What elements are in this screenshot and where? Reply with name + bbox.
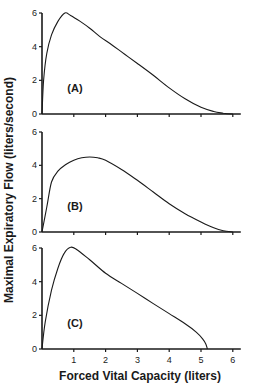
y-tick-label: 4 <box>32 42 37 52</box>
flow-volume-chart: 0246(A)0246(B)0246123456(C) Forced Vital… <box>0 0 259 392</box>
x-tick-label: 2 <box>103 355 108 365</box>
y-tick-label: 4 <box>32 160 37 170</box>
y-axis-title: Maximal Expiratory Flow (liters/second) <box>2 77 16 303</box>
y-tick-label: 0 <box>32 344 37 354</box>
x-tick-label: 6 <box>230 355 235 365</box>
flow-volume-curve <box>42 13 233 114</box>
chart-panels: 0246(A)0246(B)0246123456(C) <box>32 8 241 365</box>
panel-label: (C) <box>67 317 83 329</box>
y-tick-label: 4 <box>32 277 37 287</box>
x-tick-label: 3 <box>135 355 140 365</box>
y-tick-label: 6 <box>32 243 37 253</box>
x-tick-label: 5 <box>198 355 203 365</box>
y-tick-label: 6 <box>32 127 37 137</box>
x-tick-label: 4 <box>167 355 172 365</box>
flow-volume-curve <box>42 157 233 232</box>
panel-a: 0246(A) <box>32 8 241 119</box>
panel-label: (B) <box>67 200 83 212</box>
flow-volume-curve <box>42 247 207 349</box>
y-tick-label: 0 <box>32 109 37 119</box>
y-tick-label: 2 <box>32 75 37 85</box>
y-tick-label: 2 <box>32 310 37 320</box>
panel-b: 0246(B) <box>32 127 241 237</box>
x-axis-title: Forced Vital Capacity (liters) <box>59 369 221 383</box>
y-tick-label: 2 <box>32 194 37 204</box>
y-tick-label: 6 <box>32 8 37 18</box>
y-tick-label: 0 <box>32 227 37 237</box>
x-tick-label: 1 <box>71 355 76 365</box>
panel-c: 0246123456(C) <box>32 243 241 365</box>
panel-label: (A) <box>67 82 83 94</box>
